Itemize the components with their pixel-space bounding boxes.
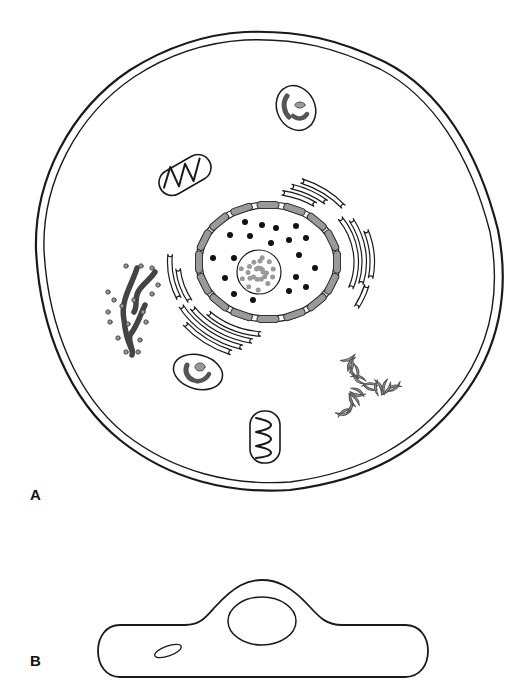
lysosome-top [269, 79, 323, 137]
ribosome [139, 264, 143, 268]
ribosome [106, 290, 110, 294]
nucleolus-granule [246, 270, 251, 275]
chromatin-dot [231, 255, 237, 261]
panel-label-b: B [30, 652, 41, 669]
chromatin-dot [303, 235, 309, 241]
chromatin-dot [286, 288, 292, 294]
chromatin-dot [231, 291, 237, 297]
chromatin-dot [303, 284, 309, 290]
nucleolus-granule [270, 274, 275, 279]
ribosome [126, 322, 130, 326]
nucleolus-granule [247, 276, 252, 281]
ribosome [116, 336, 120, 340]
envelope-segment [324, 272, 340, 295]
nucleolus-granule [264, 271, 269, 276]
chromatin-dot [296, 252, 302, 258]
ribosome [144, 320, 148, 324]
nucleolus [237, 250, 281, 294]
envelope-segment [257, 316, 279, 323]
chromatin-dot [259, 222, 265, 228]
ribosome [141, 310, 145, 314]
ribosome [136, 350, 140, 354]
envelope-segment [196, 251, 203, 273]
granule-cluster [335, 354, 402, 417]
side-view-organelle [153, 642, 183, 661]
nucleolus-granule [267, 259, 272, 264]
golgi-cisterna [355, 285, 369, 308]
chromatin-dot [293, 223, 299, 229]
rough-endoplasmic-reticulum [106, 264, 160, 355]
envelope-segment [230, 308, 253, 322]
nucleolus-granule [247, 264, 252, 269]
envelope-segment [306, 212, 327, 231]
chromatin-dot [250, 297, 256, 303]
envelope-segment [334, 251, 341, 273]
ribosome [124, 264, 128, 268]
cell-side-view [98, 580, 428, 677]
chromatin-dot [273, 225, 279, 231]
ribosome [120, 304, 124, 308]
nucleolus-granule [271, 266, 276, 271]
nucleolus-granule [260, 255, 265, 260]
side-view-nucleus [228, 597, 296, 645]
chromatin-dot [210, 255, 216, 261]
mitochondrion-upper [154, 150, 215, 201]
ribosome [106, 310, 110, 314]
envelope-segment [230, 202, 253, 216]
chromatin-dot [286, 237, 292, 243]
nucleolus-granule [256, 287, 261, 292]
golgi-cisterna [176, 269, 192, 303]
envelope-segment [283, 308, 306, 322]
envelope-segment [196, 229, 212, 252]
panel-label-a: A [30, 486, 41, 503]
nucleolus-granule [240, 276, 245, 281]
nucleus [196, 202, 341, 323]
ribosome [108, 320, 112, 324]
ribosome [124, 350, 128, 354]
envelope-segment [208, 212, 229, 231]
ribosome [156, 283, 160, 287]
chromatin-dot [293, 274, 299, 280]
nucleolus-granule [246, 284, 251, 289]
ribosome [132, 298, 136, 302]
ribosome [138, 338, 142, 342]
envelope-segment [283, 202, 306, 216]
nucleolus-granule [265, 281, 270, 286]
ribosome [150, 292, 154, 296]
nucleolus-granule [251, 260, 256, 265]
nucleolus-granule [239, 266, 244, 271]
nucleolus-granule [254, 266, 259, 271]
chromatin-dot [242, 219, 248, 225]
envelope-segment [257, 202, 279, 209]
lysosome-lower [169, 349, 226, 395]
chromatin-dot [312, 265, 318, 271]
cell-diagram [0, 0, 523, 691]
mitochondrion-lower [250, 411, 280, 463]
chromatin-dot [247, 233, 253, 239]
envelope-segment [196, 272, 212, 295]
side-view-outline [98, 580, 428, 677]
envelope-segment [324, 229, 340, 252]
chromatin-dot [268, 240, 274, 246]
chromatin-dot [222, 275, 228, 281]
chromatin-dot [227, 232, 233, 238]
envelope-segment [208, 293, 229, 312]
ribosome [112, 298, 116, 302]
ribosome [150, 266, 154, 270]
envelope-segment [306, 293, 327, 312]
